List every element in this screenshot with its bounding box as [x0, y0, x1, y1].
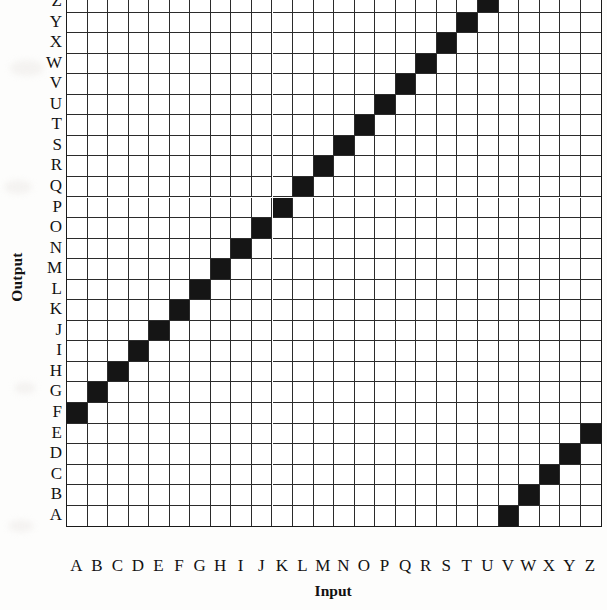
- matrix-cell: [231, 74, 252, 95]
- matrix-cell: [170, 321, 191, 342]
- matrix-cell: [190, 136, 211, 157]
- matrix-cell: [478, 444, 499, 465]
- matrix-cell: [375, 74, 396, 95]
- matrix-cell: [293, 321, 314, 342]
- matrix-cell: [273, 506, 294, 527]
- matrix-cell: [560, 13, 581, 34]
- matrix-cell: [396, 259, 417, 280]
- x-axis-tick-labels: ABCDEFGHIJKLMNOPQRSTUVWXYZ: [66, 556, 600, 580]
- matrix-cell: [252, 362, 273, 383]
- matrix-cell: [478, 33, 499, 54]
- matrix-cell: [499, 13, 520, 34]
- matrix-cell: [581, 74, 602, 95]
- matrix-cell: [416, 362, 437, 383]
- matrix-cell: [252, 280, 273, 301]
- matrix-cell: [499, 341, 520, 362]
- matrix-cell: [252, 115, 273, 136]
- matrix-cell: [190, 465, 211, 486]
- matrix-cell: [67, 465, 88, 486]
- matrix-cell: [560, 341, 581, 362]
- matrix-cell: [416, 156, 437, 177]
- matrix-cell: [170, 0, 191, 13]
- matrix-cell: [67, 239, 88, 260]
- matrix-cell: [437, 321, 458, 342]
- matrix-cell: [581, 424, 602, 445]
- matrix-cell: [457, 33, 478, 54]
- y-tick-label: C: [51, 464, 62, 485]
- matrix-cell: [581, 465, 602, 486]
- matrix-cell: [88, 403, 109, 424]
- matrix-cell: [334, 341, 355, 362]
- matrix-cell: [149, 362, 170, 383]
- matrix-cell: [149, 156, 170, 177]
- matrix-cell: [437, 403, 458, 424]
- matrix-cell: [231, 218, 252, 239]
- y-tick-label: Z: [52, 0, 62, 12]
- matrix-cell: [499, 280, 520, 301]
- matrix-cell: [314, 444, 335, 465]
- matrix-cell: [375, 382, 396, 403]
- matrix-cell: [170, 485, 191, 506]
- matrix-cell: [581, 444, 602, 465]
- matrix-cell: [375, 239, 396, 260]
- matrix-cell: [375, 341, 396, 362]
- y-tick-label: T: [52, 114, 62, 135]
- matrix-cell: [88, 506, 109, 527]
- matrix-cell: [416, 465, 437, 486]
- y-tick-label: Y: [50, 12, 62, 33]
- x-tick-label: H: [210, 556, 231, 576]
- matrix-cell: [88, 465, 109, 486]
- matrix-cell: [273, 444, 294, 465]
- matrix-cell: [355, 280, 376, 301]
- matrix-cell: [252, 465, 273, 486]
- matrix-cell: [190, 177, 211, 198]
- x-tick-label: O: [354, 556, 375, 576]
- matrix-cell: [355, 74, 376, 95]
- matrix-cell: [416, 198, 437, 219]
- matrix-cell: [273, 280, 294, 301]
- matrix-cell: [560, 33, 581, 54]
- matrix-cell: [499, 0, 520, 13]
- matrix-cell: [211, 506, 232, 527]
- matrix-cell: [499, 465, 520, 486]
- matrix-cell: [231, 95, 252, 116]
- matrix-cell: [540, 321, 561, 342]
- matrix-cell: [375, 259, 396, 280]
- matrix-cell: [375, 33, 396, 54]
- matrix-cell: [334, 362, 355, 383]
- matrix-cell: [273, 259, 294, 280]
- x-tick-label: Q: [395, 556, 416, 576]
- matrix-cell: [540, 13, 561, 34]
- matrix-cell: [499, 54, 520, 75]
- matrix-cell: [396, 0, 417, 13]
- matrix-cell: [88, 198, 109, 219]
- matrix-cell: [67, 218, 88, 239]
- matrix-cell: [396, 506, 417, 527]
- matrix-cell: [67, 136, 88, 157]
- matrix-cell: [231, 136, 252, 157]
- matrix-cell: [375, 362, 396, 383]
- matrix-cell: [293, 465, 314, 486]
- matrix-cell: [149, 95, 170, 116]
- matrix-cell: [519, 403, 540, 424]
- matrix-cell: [211, 115, 232, 136]
- matrix-cell: [519, 362, 540, 383]
- matrix-cell: [437, 156, 458, 177]
- matrix-cell: [231, 321, 252, 342]
- matrix-cell: [519, 280, 540, 301]
- matrix-cell: [478, 239, 499, 260]
- x-tick-label: V: [498, 556, 519, 576]
- matrix-cell: [437, 33, 458, 54]
- x-tick-label: S: [436, 556, 457, 576]
- matrix-cell: [314, 382, 335, 403]
- matrix-cell: [252, 403, 273, 424]
- matrix-cell: [190, 74, 211, 95]
- matrix-cell: [108, 444, 129, 465]
- matrix-cell: [375, 136, 396, 157]
- x-tick-label: Z: [580, 556, 601, 576]
- matrix-cell: [437, 280, 458, 301]
- matrix-cell: [293, 13, 314, 34]
- matrix-cell: [170, 403, 191, 424]
- matrix-cell: [88, 321, 109, 342]
- matrix-cell: [231, 115, 252, 136]
